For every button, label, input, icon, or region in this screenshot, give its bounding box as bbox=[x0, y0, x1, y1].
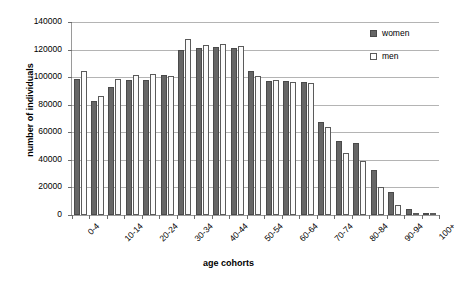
x-tick-mark bbox=[387, 215, 388, 219]
x-tick-mark bbox=[89, 215, 90, 219]
bar-men bbox=[115, 79, 121, 215]
bar-women bbox=[178, 50, 184, 215]
bar-men bbox=[290, 82, 296, 215]
x-tick-mark bbox=[142, 215, 143, 219]
bar-men bbox=[325, 127, 331, 215]
y-tick-label: 80000 bbox=[2, 100, 62, 109]
bar-women bbox=[248, 71, 254, 215]
y-tick-mark bbox=[68, 132, 72, 133]
bar-men bbox=[168, 76, 174, 215]
x-axis-title: age cohorts bbox=[0, 258, 457, 268]
bar-men bbox=[150, 74, 156, 215]
bar-men bbox=[98, 96, 104, 215]
bar-women bbox=[388, 192, 394, 215]
y-tick-mark bbox=[68, 160, 72, 161]
x-tick-mark bbox=[439, 215, 440, 219]
x-tick-mark bbox=[72, 215, 73, 219]
bar-chart: number of individuals 020000400006000080… bbox=[0, 0, 457, 282]
bar-women bbox=[126, 80, 132, 215]
bar-women bbox=[423, 213, 429, 215]
x-tick-mark bbox=[107, 215, 108, 219]
x-tick-mark bbox=[229, 215, 230, 219]
bar-women bbox=[406, 209, 412, 215]
bar-women bbox=[336, 141, 342, 215]
x-tick-label: 80-84 bbox=[367, 221, 389, 243]
x-tick-mark bbox=[334, 215, 335, 219]
bar-men bbox=[395, 205, 401, 215]
x-tick-mark bbox=[352, 215, 353, 219]
bar-women bbox=[108, 87, 114, 215]
gridline bbox=[72, 22, 439, 23]
legend-swatch-men-icon bbox=[370, 53, 377, 60]
bar-men bbox=[430, 213, 436, 215]
bar-men bbox=[133, 75, 139, 215]
x-tick-mark bbox=[194, 215, 195, 219]
bar-women bbox=[318, 122, 324, 215]
x-tick-label: 0-4 bbox=[85, 221, 101, 237]
bar-men bbox=[378, 187, 384, 215]
bar-men bbox=[308, 83, 314, 215]
x-tick-mark bbox=[159, 215, 160, 219]
y-tick-label: 140000 bbox=[2, 17, 62, 26]
bar-men bbox=[273, 80, 279, 215]
x-tick-mark bbox=[247, 215, 248, 219]
y-tick-mark bbox=[68, 105, 72, 106]
bar-women bbox=[353, 143, 359, 215]
y-tick-label: 60000 bbox=[2, 127, 62, 136]
y-tick-label: 0 bbox=[2, 210, 62, 219]
bar-men bbox=[203, 45, 209, 215]
x-tick-mark bbox=[282, 215, 283, 219]
x-tick-label: 50-54 bbox=[263, 221, 285, 243]
x-tick-mark bbox=[264, 215, 265, 219]
y-tick-label: 20000 bbox=[2, 182, 62, 191]
bar-women bbox=[266, 81, 272, 215]
bar-men bbox=[255, 76, 261, 215]
bar-women bbox=[161, 75, 167, 215]
chart-legend: women men bbox=[370, 26, 409, 72]
legend-item-men: men bbox=[370, 49, 409, 63]
x-tick-mark bbox=[177, 215, 178, 219]
x-tick-label: 90-94 bbox=[402, 221, 424, 243]
x-tick-label: 60-64 bbox=[298, 221, 320, 243]
bar-women bbox=[283, 81, 289, 215]
bar-women bbox=[143, 80, 149, 215]
y-tick-label: 40000 bbox=[2, 155, 62, 164]
x-tick-mark bbox=[212, 215, 213, 219]
x-tick-mark bbox=[317, 215, 318, 219]
bar-women bbox=[301, 82, 307, 215]
y-tick-mark bbox=[68, 50, 72, 51]
bar-women bbox=[371, 170, 377, 215]
x-tick-label: 20-24 bbox=[158, 221, 180, 243]
y-tick-mark bbox=[68, 22, 72, 23]
y-tick-label: 120000 bbox=[2, 45, 62, 54]
y-tick-label: 100000 bbox=[2, 72, 62, 81]
x-tick-label: 70-74 bbox=[333, 221, 355, 243]
legend-item-women: women bbox=[370, 26, 409, 40]
bar-men bbox=[360, 161, 366, 215]
x-tick-mark bbox=[422, 215, 423, 219]
y-tick-mark bbox=[68, 187, 72, 188]
y-tick-mark bbox=[68, 77, 72, 78]
bar-men bbox=[413, 213, 419, 215]
legend-swatch-women-icon bbox=[370, 30, 377, 37]
x-tick-label: 100+ bbox=[437, 221, 457, 242]
x-tick-label: 30-34 bbox=[193, 221, 215, 243]
bar-men bbox=[220, 44, 226, 215]
x-tick-mark bbox=[404, 215, 405, 219]
legend-label-women: women bbox=[382, 29, 409, 38]
bar-men bbox=[185, 39, 191, 215]
x-tick-label: 40-44 bbox=[228, 221, 250, 243]
x-tick-mark bbox=[124, 215, 125, 219]
x-tick-mark bbox=[299, 215, 300, 219]
bar-women bbox=[74, 79, 80, 215]
bar-women bbox=[213, 47, 219, 215]
bar-women bbox=[91, 101, 97, 215]
legend-label-men: men bbox=[382, 52, 399, 61]
bar-men bbox=[81, 71, 87, 215]
x-tick-label: 10-14 bbox=[123, 221, 145, 243]
bar-women bbox=[196, 48, 202, 215]
bar-men bbox=[238, 46, 244, 215]
bar-men bbox=[343, 153, 349, 215]
x-tick-mark bbox=[369, 215, 370, 219]
bar-women bbox=[231, 48, 237, 215]
